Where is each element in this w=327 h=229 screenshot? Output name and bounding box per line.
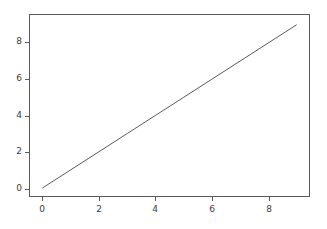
x-tick-label: 4: [140, 204, 170, 215]
y-tick-label: 0: [0, 183, 22, 194]
figure-canvas: 02468 02468: [0, 0, 327, 229]
y-tick-mark: [25, 189, 29, 190]
x-tick-mark: [155, 197, 156, 201]
x-tick-mark: [42, 197, 43, 201]
y-tick-mark: [25, 116, 29, 117]
plot-axes-frame: [29, 14, 310, 197]
y-tick-label: 8: [0, 36, 22, 47]
y-tick-mark: [25, 42, 29, 43]
x-tick-label: 0: [27, 204, 57, 215]
y-tick-label: 2: [0, 146, 22, 157]
series-line-0: [43, 25, 297, 188]
plot-line-layer: [30, 15, 309, 196]
x-tick-label: 6: [197, 204, 227, 215]
x-tick-mark: [269, 197, 270, 201]
x-tick-mark: [212, 197, 213, 201]
y-tick-mark: [25, 152, 29, 153]
x-tick-mark: [99, 197, 100, 201]
y-tick-label: 4: [0, 110, 22, 121]
x-tick-label: 2: [84, 204, 114, 215]
y-tick-label: 6: [0, 73, 22, 84]
x-tick-label: 8: [254, 204, 284, 215]
y-tick-mark: [25, 79, 29, 80]
data-series-group: [43, 25, 297, 188]
